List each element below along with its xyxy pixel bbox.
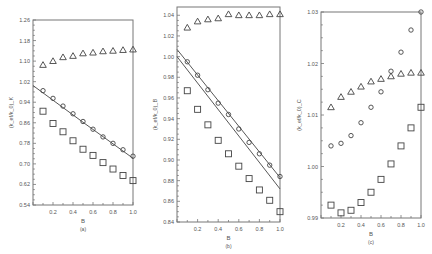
y-tick-label: 1.00 — [307, 164, 318, 170]
triangle-marker — [40, 62, 47, 68]
triangle-marker — [80, 50, 87, 56]
y-axis-label: (k_ef/k_0)_K — [8, 97, 14, 129]
plot-frame — [177, 7, 280, 222]
x-axis-label: B — [226, 235, 230, 241]
circle-marker — [339, 141, 343, 145]
square-marker — [256, 187, 262, 193]
square-marker — [215, 137, 221, 143]
x-tick-label: 1.0 — [417, 222, 425, 228]
y-tick-label: 1.02 — [19, 79, 30, 85]
triangle-marker — [266, 11, 273, 17]
panel-c: 0.991.001.011.021.030.20.40.60.81.0B(c)(… — [296, 9, 425, 245]
y-axis-label: (k_ef/k_0)_C — [296, 99, 302, 131]
square-marker — [378, 176, 384, 182]
y-tick-label: 1.01 — [307, 112, 318, 118]
y-tick-label: 1.10 — [19, 58, 30, 64]
triangle-marker — [388, 73, 395, 79]
triangle-marker — [236, 12, 243, 18]
x-tick-label: 0.6 — [235, 226, 243, 232]
square-marker — [328, 202, 334, 208]
panel-caption: (b) — [225, 243, 231, 249]
three-panel-scatter-figure: 0.540.620.700.780.860.941.021.101.181.26… — [0, 0, 432, 254]
triangle-marker — [358, 83, 365, 89]
triangle-marker — [328, 104, 335, 110]
triangle-marker — [90, 49, 97, 55]
square-marker — [120, 172, 126, 178]
figure: 0.540.620.700.780.860.941.021.101.181.26… — [0, 0, 432, 254]
square-marker — [80, 146, 86, 152]
square-marker — [195, 106, 201, 112]
y-axis-label: (k_ef/k_0)_B — [152, 99, 158, 131]
y-tick-label: 1.18 — [19, 38, 30, 44]
y-tick-label: 0.99 — [307, 215, 318, 221]
circle-marker — [349, 133, 353, 137]
square-marker — [184, 88, 190, 94]
y-tick-label: 0.98 — [163, 74, 174, 80]
y-tick-label: 0.90 — [163, 157, 174, 163]
triangle-marker — [205, 16, 212, 22]
y-tick-label: 1.04 — [163, 12, 174, 18]
circle-marker — [247, 140, 251, 144]
square-marker — [226, 151, 232, 157]
y-tick-label: 0.86 — [163, 198, 174, 204]
circle-marker — [409, 28, 413, 32]
y-tick-label: 0.62 — [19, 181, 30, 187]
x-tick-label: 0.8 — [109, 209, 117, 215]
circle-marker — [41, 88, 45, 92]
x-tick-label: 1.0 — [129, 209, 137, 215]
square-marker — [408, 125, 414, 131]
x-tick-label: 0.4 — [69, 209, 77, 215]
y-tick-label: 0.86 — [19, 120, 30, 126]
square-marker — [100, 160, 106, 166]
square-marker — [70, 138, 76, 144]
x-tick-label: 0.4 — [214, 226, 222, 232]
triangle-marker — [338, 94, 345, 100]
triangle-marker — [194, 18, 201, 24]
triangle-marker — [408, 69, 415, 75]
triangle-marker — [398, 71, 405, 77]
x-tick-label: 0.6 — [377, 222, 385, 228]
square-marker — [50, 121, 56, 127]
panel-b: 0.840.860.880.900.920.940.960.981.001.02… — [152, 7, 284, 249]
square-marker — [358, 200, 364, 206]
triangle-marker — [378, 76, 385, 82]
fit-line — [177, 57, 280, 189]
circle-marker — [359, 121, 363, 125]
circle-marker — [237, 127, 241, 131]
triangle-marker — [246, 12, 253, 18]
y-tick-label: 0.88 — [163, 178, 174, 184]
fit-line — [177, 49, 280, 177]
triangle-marker — [215, 15, 222, 21]
y-tick-label: 0.92 — [163, 136, 174, 142]
y-tick-label: 0.78 — [19, 140, 30, 146]
square-marker — [348, 207, 354, 213]
y-tick-label: 1.02 — [163, 33, 174, 39]
x-tick-label: 0.2 — [337, 222, 345, 228]
x-tick-label: 0.6 — [89, 209, 97, 215]
y-tick-label: 0.94 — [163, 116, 174, 122]
square-marker — [110, 166, 116, 172]
triangle-marker — [100, 48, 107, 54]
x-axis-label: B — [369, 231, 373, 237]
square-marker — [368, 189, 374, 195]
triangle-marker — [70, 53, 77, 59]
x-tick-label: 1.0 — [276, 226, 284, 232]
square-marker — [60, 129, 66, 135]
x-axis-label: B — [81, 218, 85, 224]
y-tick-label: 0.84 — [163, 219, 174, 225]
y-tick-label: 0.94 — [19, 99, 30, 105]
triangle-marker — [110, 48, 117, 54]
triangle-marker — [348, 89, 355, 95]
square-marker — [90, 152, 96, 158]
x-tick-label: 0.2 — [49, 209, 57, 215]
triangle-marker — [60, 54, 67, 60]
square-marker — [398, 143, 404, 149]
x-tick-label: 0.8 — [256, 226, 264, 232]
y-tick-label: 1.26 — [19, 17, 30, 23]
circle-marker — [329, 144, 333, 148]
square-marker — [267, 197, 273, 203]
y-tick-label: 1.02 — [307, 61, 318, 67]
x-tick-label: 0.2 — [194, 226, 202, 232]
panel-caption: (a) — [80, 226, 86, 232]
square-marker — [388, 161, 394, 167]
